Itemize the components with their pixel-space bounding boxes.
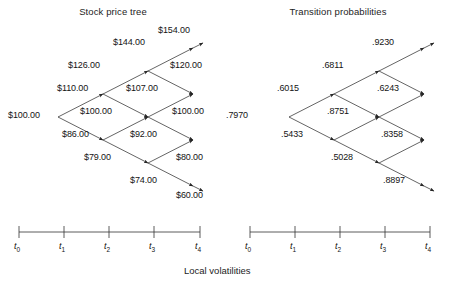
axis-tick-t1: t1 (290, 241, 296, 253)
node-label: $92.00 (130, 129, 157, 139)
node-label: .6015 (277, 83, 299, 93)
node-label: .5433 (281, 129, 303, 139)
node-label: $79.00 (84, 152, 111, 162)
node-label: .7970 (226, 110, 248, 120)
node-label: $100.00 (172, 106, 204, 116)
node-label: .9230 (372, 37, 394, 47)
transition-probabilities-panel: Transition probabilities (225, 0, 451, 284)
node-label: .6811 (322, 60, 343, 70)
node-label: .8751 (327, 106, 349, 116)
axis-tick-t2: t2 (335, 241, 341, 253)
stock-price-tree-panel: Stock price tree (0, 0, 226, 284)
axis-tick-t0: t0 (245, 241, 251, 253)
node-label: $126.00 (68, 60, 100, 70)
node-label: $110.00 (57, 83, 88, 93)
tree-edges (289, 43, 434, 191)
figure-caption: Local volatilities (184, 265, 251, 276)
node-label: $154.00 (158, 25, 190, 35)
axis-tick-t4: t4 (425, 241, 431, 253)
node-label: .8358 (381, 129, 403, 139)
node-label: $60.00 (176, 190, 203, 200)
node-label: $100.00 (8, 110, 40, 120)
node-label: $100.00 (80, 106, 112, 116)
time-axis (250, 226, 430, 238)
node-label: $107.00 (126, 83, 158, 93)
node-label: $80.00 (176, 152, 203, 162)
node-label: $86.00 (62, 129, 89, 139)
time-axis (19, 226, 200, 238)
axis-tick-t3: t3 (149, 241, 155, 253)
axis-tick-t4: t4 (195, 241, 201, 253)
axis-tick-t0: t0 (14, 241, 20, 253)
node-label: .6243 (377, 83, 399, 93)
axis-tick-t1: t1 (59, 241, 65, 253)
node-label: $144.00 (113, 37, 145, 47)
axis-tick-t3: t3 (380, 241, 386, 253)
node-label: .8897 (383, 175, 405, 185)
axis-tick-t2: t2 (104, 241, 110, 253)
node-label: $74.00 (130, 175, 157, 185)
node-label: $120.00 (170, 60, 202, 70)
node-label: .5028 (331, 152, 353, 162)
